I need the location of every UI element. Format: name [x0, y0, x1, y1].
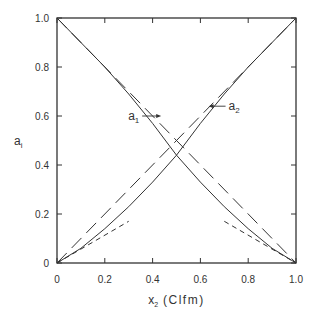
annotation-a1-label: a1: [128, 109, 140, 125]
x-tick-label: 0.8: [241, 274, 255, 285]
x-tick-label: 0.6: [193, 274, 207, 285]
y-tick-label: 1.0: [35, 13, 49, 24]
series-line: [57, 221, 129, 263]
x-axis-label: x2 (Clfm): [148, 293, 204, 308]
chart: 00.20.40.60.81.000.20.40.60.81.0a1a2aix2…: [0, 0, 313, 315]
y-tick-label: 0.4: [35, 160, 49, 171]
y-tick-label: 0.2: [35, 209, 49, 220]
y-tick-label: 0.6: [35, 111, 49, 122]
arrowhead-icon: [156, 114, 161, 118]
annotation-a2-label: a2: [229, 99, 241, 115]
x-tick-label: 0: [54, 274, 60, 285]
x-tick-label: 1.0: [289, 274, 303, 285]
y-axis-label: ai: [14, 134, 23, 150]
y-tick-label: 0.8: [35, 62, 49, 73]
y-tick-label: 0: [43, 258, 49, 269]
x-tick-label: 0.2: [98, 274, 112, 285]
x-tick-label: 0.4: [146, 274, 160, 285]
